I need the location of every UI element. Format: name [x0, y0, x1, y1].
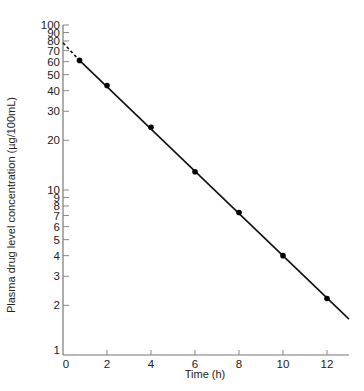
- data-point: [236, 210, 242, 216]
- y-tick-label: 1: [54, 344, 60, 356]
- y-tick-label: 5: [54, 234, 60, 246]
- data-point: [280, 253, 286, 259]
- x-tick-label: 2: [104, 358, 110, 370]
- y-tick-label: 60: [47, 56, 60, 68]
- y-tick-label: 20: [47, 134, 60, 146]
- semilog-chart: 123456789102030405060708090100 024681012…: [0, 0, 364, 391]
- y-tick-label: 30: [47, 105, 60, 117]
- y-tick-label: 3: [54, 270, 60, 282]
- x-axis: 024681012: [63, 350, 349, 370]
- y-tick-label: 2: [54, 299, 60, 311]
- y-tick-label: 4: [54, 250, 61, 262]
- y-axis: 123456789102030405060708090100: [41, 19, 69, 356]
- y-tick-label: 6: [54, 221, 60, 233]
- data-point: [148, 124, 154, 130]
- y-tick-label: 100: [41, 19, 60, 31]
- x-tick-label: 0: [63, 358, 69, 370]
- data-point: [104, 83, 110, 89]
- plot-area: [63, 43, 349, 319]
- x-tick-label: 10: [277, 358, 290, 370]
- data-point: [324, 296, 330, 302]
- y-axis-title: Plasma drug level concentration (µg/100m…: [5, 97, 17, 313]
- x-axis-title: Time (h): [185, 368, 226, 380]
- y-tick-label: 10: [47, 184, 60, 196]
- fit-line: [80, 60, 350, 319]
- extrapolation-dashed-line: [63, 43, 80, 61]
- x-tick-label: 8: [236, 358, 242, 370]
- y-tick-label: 40: [47, 85, 60, 97]
- data-point: [77, 58, 83, 64]
- x-tick-label: 12: [321, 358, 334, 370]
- y-tick-label: 50: [47, 69, 60, 81]
- x-tick-label: 4: [148, 358, 155, 370]
- data-point: [192, 169, 198, 175]
